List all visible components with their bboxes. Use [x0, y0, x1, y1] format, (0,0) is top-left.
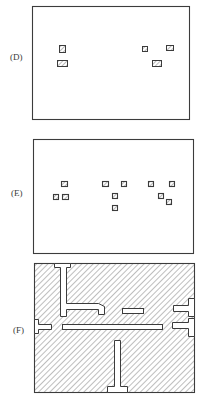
small-bar [123, 309, 144, 314]
long-bar [63, 325, 163, 330]
figure: (D) (E) (F) [0, 0, 201, 403]
panel-d [33, 7, 190, 120]
diagram-canvas [0, 0, 201, 403]
panel-e-blocks [54, 182, 175, 211]
panel-d-frame [33, 7, 190, 120]
panel-d-blocks [58, 46, 174, 67]
panel-e [34, 140, 194, 254]
panel-f [35, 264, 195, 393]
